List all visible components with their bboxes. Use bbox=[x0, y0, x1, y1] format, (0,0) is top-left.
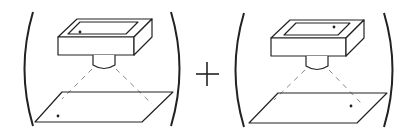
left-source-dot bbox=[79, 31, 82, 34]
right-panel bbox=[236, 13, 393, 127]
right-projection-rays bbox=[274, 70, 362, 104]
right-source-dot bbox=[333, 26, 336, 29]
diagram-svg bbox=[0, 0, 412, 138]
right-projection-plane bbox=[249, 93, 387, 123]
left-close-paren bbox=[171, 12, 180, 126]
left-target-dot bbox=[57, 115, 60, 118]
right-projector-box bbox=[271, 20, 364, 56]
left-projector-box bbox=[58, 19, 152, 55]
right-open-paren bbox=[236, 13, 245, 127]
left-projection-plane bbox=[35, 92, 173, 122]
right-close-paren bbox=[384, 13, 393, 127]
diagram-canvas bbox=[0, 0, 412, 138]
left-panel bbox=[25, 12, 180, 126]
plus-operator bbox=[196, 62, 219, 86]
left-lens bbox=[93, 55, 115, 69]
right-lens bbox=[306, 56, 328, 70]
left-open-paren bbox=[25, 12, 34, 126]
right-target-dot bbox=[350, 105, 353, 108]
left-projection-rays bbox=[62, 69, 152, 104]
